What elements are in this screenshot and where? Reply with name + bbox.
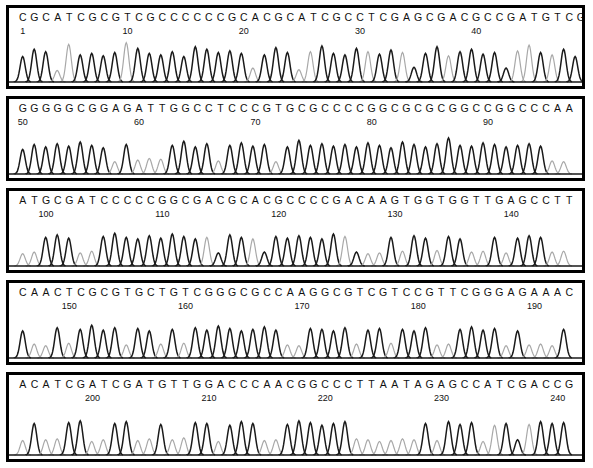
base-call-G: G: [203, 377, 215, 391]
peak: [383, 50, 400, 82]
base-call-A: A: [250, 193, 262, 207]
base-call-G: G: [447, 101, 459, 115]
base-call-C: C: [284, 377, 296, 391]
base-call-C: C: [238, 101, 250, 115]
base-call-A: A: [529, 285, 541, 299]
position-tick-1: 1: [20, 26, 25, 37]
base-call-T: T: [157, 101, 169, 115]
base-call-letters-5: ACATCGATCGATGTTGGACCCAACGGCCCTTAATAGAGCC…: [17, 377, 575, 391]
base-call-T: T: [366, 10, 378, 24]
position-tick-10: 10: [122, 26, 132, 37]
base-call-T: T: [389, 285, 401, 299]
electropherogram-trace-4[interactable]: [9, 314, 582, 362]
base-call-T: T: [436, 193, 448, 207]
base-call-A: A: [366, 193, 378, 207]
base-call-T: T: [563, 193, 575, 207]
base-call-C: C: [459, 377, 471, 391]
base-call-G: G: [308, 285, 320, 299]
base-call-T: T: [98, 377, 110, 391]
base-call-G: G: [110, 285, 122, 299]
base-call-C: C: [133, 10, 145, 24]
base-call-T: T: [401, 193, 413, 207]
peak: [118, 43, 135, 82]
base-call-A: A: [517, 10, 529, 24]
base-call-C: C: [284, 10, 296, 24]
electropherogram-trace-5[interactable]: [9, 407, 582, 459]
position-tick-90: 90: [483, 117, 493, 128]
base-call-G: G: [459, 101, 471, 115]
trace-panel-1[interactable]: CGCATCGCGTCGCCCCCCGCACGCATCGCCTCGAGCGACG…: [6, 5, 585, 89]
base-call-C: C: [552, 377, 564, 391]
position-tick-220: 220: [318, 393, 333, 404]
base-call-G: G: [40, 101, 52, 115]
base-call-G: G: [273, 193, 285, 207]
base-call-G: G: [29, 10, 41, 24]
base-call-C: C: [64, 377, 76, 391]
electropherogram-trace-2[interactable]: [9, 130, 582, 178]
base-call-G: G: [98, 101, 110, 115]
peak: [394, 439, 411, 455]
base-call-C: C: [215, 10, 227, 24]
trace-panel-3[interactable]: ATGCGATCCCCCGGCGACGCACGCCCCGACAAGTGGTGGT…: [6, 188, 585, 273]
peak: [118, 144, 135, 174]
peak: [348, 252, 365, 266]
base-call-C: C: [238, 193, 250, 207]
position-tick-50: 50: [18, 117, 28, 128]
base-call-G: G: [447, 377, 459, 391]
base-call-G: G: [87, 285, 99, 299]
base-call-A: A: [87, 377, 99, 391]
peak: [26, 424, 43, 456]
base-call-C: C: [98, 193, 110, 207]
position-tick-190: 190: [527, 301, 542, 312]
position-tick-30: 30: [355, 26, 365, 37]
base-call-C: C: [261, 193, 273, 207]
base-call-C: C: [470, 377, 482, 391]
base-call-letters-4: CAACTCGCGTGCTGTCGGGCGCCAAGGCGTCGTCCGTTCG…: [17, 285, 575, 299]
electropherogram-trace-1[interactable]: [9, 38, 582, 86]
peak: [14, 331, 31, 358]
peak: [268, 48, 285, 82]
base-call-G: G: [482, 285, 494, 299]
position-tick-20: 20: [239, 26, 249, 37]
base-call-G: G: [226, 10, 238, 24]
electropherogram-trace-3[interactable]: [9, 222, 582, 270]
base-call-G: G: [366, 101, 378, 115]
trace-panel-2[interactable]: GGGGGCGGAGATTGGCCTCCCGTGCGCCCCGGCGCGCGGC…: [6, 96, 585, 181]
peak: [429, 47, 446, 82]
base-call-T: T: [354, 377, 366, 391]
base-call-T: T: [354, 285, 366, 299]
trace-panel-5[interactable]: ACATCGATCGATGTTGGACCCAACGGCCCTTAATAGAGCC…: [6, 372, 585, 462]
base-call-T: T: [470, 193, 482, 207]
base-call-G: G: [494, 101, 506, 115]
base-call-C: C: [75, 10, 87, 24]
trace-svg: [9, 407, 582, 459]
base-call-C: C: [215, 193, 227, 207]
base-call-G: G: [64, 193, 76, 207]
base-call-A: A: [401, 10, 413, 24]
trace-svg: [9, 222, 582, 270]
base-call-T: T: [552, 10, 564, 24]
base-call-G: G: [308, 101, 320, 115]
base-call-G: G: [296, 377, 308, 391]
trace-panel-4[interactable]: CAACTCGCGTGCTGTCGGGCGCCAAGGCGTCGTCCGTTCG…: [6, 280, 585, 365]
base-call-A: A: [529, 377, 541, 391]
base-call-T: T: [87, 193, 99, 207]
base-call-C: C: [540, 193, 552, 207]
base-call-G: G: [226, 193, 238, 207]
base-call-G: G: [470, 10, 482, 24]
base-call-T: T: [215, 101, 227, 115]
base-call-C: C: [319, 193, 331, 207]
base-call-G: G: [168, 193, 180, 207]
base-call-C: C: [191, 285, 203, 299]
base-call-C: C: [122, 193, 134, 207]
base-call-C: C: [17, 285, 29, 299]
base-call-A: A: [377, 193, 389, 207]
position-ruler-5: 200210220230240: [9, 393, 582, 406]
base-call-G: G: [215, 285, 227, 299]
base-call-G: G: [110, 10, 122, 24]
position-tick-120: 120: [271, 209, 286, 220]
base-call-C: C: [296, 101, 308, 115]
base-call-C: C: [331, 377, 343, 391]
base-call-G: G: [494, 285, 506, 299]
position-tick-40: 40: [471, 26, 481, 37]
